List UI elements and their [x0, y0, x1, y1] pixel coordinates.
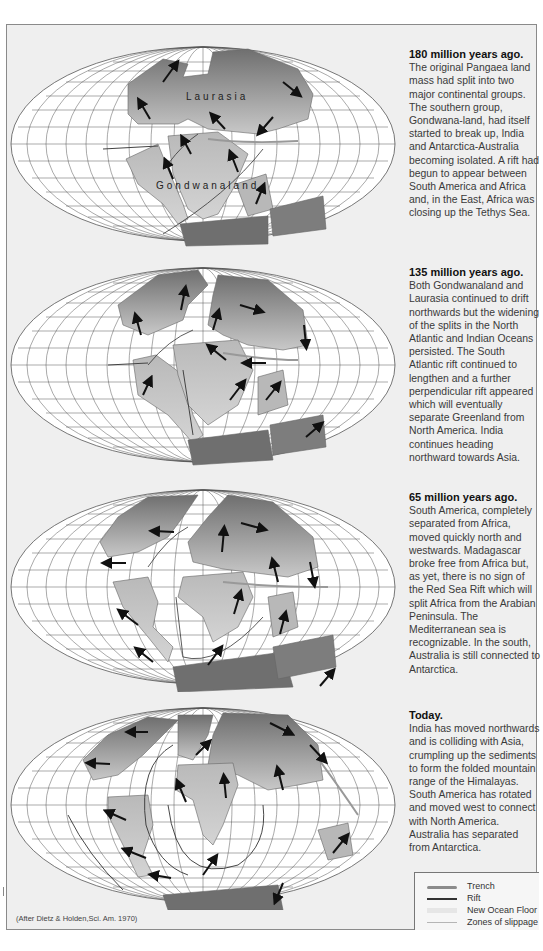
source-credit: (After Dietz & Holden,Sci. Am. 1970) — [16, 914, 137, 923]
caption-text: The original Pangaea land mass had split… — [409, 62, 539, 218]
slippage-swatch-icon — [427, 922, 457, 923]
map-180-million-years: Laurasia Gondwanaland — [8, 44, 400, 249]
legend-item-new-ocean-floor: New Ocean Floor — [415, 905, 540, 917]
caption-title: 135 million years ago. — [409, 266, 541, 279]
trench-swatch-icon — [427, 886, 457, 889]
caption-title: Today. — [409, 709, 541, 722]
caption-text: South America, completely separated from… — [409, 505, 540, 674]
caption-65-million: 65 million years ago. South America, com… — [409, 491, 541, 676]
map-label-gondwanaland: Gondwanaland — [156, 180, 259, 191]
margin-mark — [3, 887, 4, 896]
new-ocean-floor-swatch-icon — [427, 908, 457, 913]
map-135-million-years — [8, 265, 400, 470]
map-label-laurasia: Laurasia — [186, 91, 248, 102]
caption-title: 180 million years ago. — [409, 48, 541, 61]
legend: Trench Rift New Ocean Floor Zones of sli… — [414, 872, 539, 930]
caption-title: 65 million years ago. — [409, 491, 541, 504]
map-today — [8, 705, 400, 910]
legend-item-rift: Rift — [415, 893, 540, 905]
legend-item-zones-of-slippage: Zones of slippage — [415, 917, 540, 929]
rift-swatch-icon — [427, 898, 457, 900]
caption-today: Today. India has moved northwards and is… — [409, 709, 541, 854]
map-65-million-years — [8, 487, 400, 692]
caption-135-million: 135 million years ago. Both Gondwanaland… — [409, 266, 541, 464]
legend-item-trench: Trench — [415, 881, 540, 893]
caption-180-million: 180 million years ago. The original Pang… — [409, 48, 541, 220]
caption-text: India has moved northwards and is collid… — [409, 723, 540, 853]
caption-text: Both Gondwanaland and Laurasia continued… — [409, 280, 539, 463]
